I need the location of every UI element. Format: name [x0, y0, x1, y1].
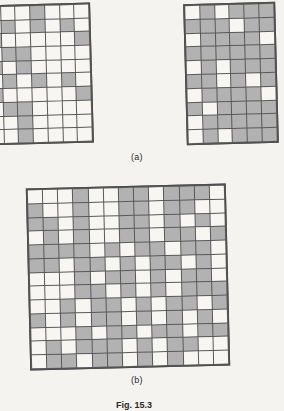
- grid-cell: [32, 341, 46, 354]
- grid-cell: [215, 19, 229, 32]
- grid-cell: [76, 299, 90, 312]
- grid-cell: [246, 46, 260, 59]
- grid-cell: [212, 282, 226, 295]
- grid-cell: [33, 102, 47, 115]
- grid-cell: [89, 216, 103, 229]
- grid-cell: [167, 311, 181, 324]
- grid-cell: [107, 326, 121, 339]
- grid-cell: [92, 354, 106, 367]
- grid-cell: [165, 228, 179, 241]
- grid-cell: [48, 129, 62, 142]
- grid-cell: [195, 214, 209, 227]
- grid-cell: [149, 201, 163, 214]
- grid-cell: [62, 327, 76, 340]
- panel-a-caption: (a): [131, 152, 143, 162]
- grid-cell: [262, 114, 276, 127]
- grid-cell: [119, 188, 133, 201]
- grid-cell: [212, 296, 226, 309]
- grid-cell: [247, 87, 261, 100]
- grid-cell: [195, 200, 209, 213]
- grid-cell: [75, 32, 89, 45]
- figure-number-label: Fig. 15.3: [116, 400, 152, 411]
- panel-b-caption: (b): [131, 375, 143, 385]
- grid-cell: [78, 128, 92, 141]
- grid-cell: [183, 338, 197, 351]
- grid-cell: [76, 73, 90, 86]
- grid-cell: [18, 88, 32, 101]
- grid-cell: [121, 270, 135, 283]
- grid-cell: [165, 201, 179, 214]
- grid-cell: [134, 187, 148, 200]
- grid-cell: [60, 258, 74, 271]
- grid-cell: [261, 73, 275, 86]
- grid-cell: [198, 310, 212, 323]
- grid-cell: [197, 269, 211, 282]
- grid-cell: [153, 352, 167, 365]
- grid-cell: [77, 327, 91, 340]
- grid-cell: [182, 296, 196, 309]
- grid-cell: [233, 115, 247, 128]
- grid-cell: [138, 339, 152, 352]
- grid-cell: [31, 47, 45, 60]
- grid-cell: [196, 227, 210, 240]
- grid-cell: [3, 103, 17, 116]
- grid-cell: [76, 313, 90, 326]
- grid-cell: [47, 341, 61, 354]
- grid-cell: [59, 231, 73, 244]
- grid-cell: [32, 74, 46, 87]
- grid-cell: [77, 87, 91, 100]
- grid-cell: [0, 76, 2, 89]
- grid-cell: [32, 355, 46, 368]
- grid-cell: [45, 286, 59, 299]
- grid-cell: [104, 202, 118, 215]
- grid-cell: [31, 314, 45, 327]
- grid-cell: [182, 283, 196, 296]
- grid-cell: [187, 61, 201, 74]
- grid-cell: [231, 74, 245, 87]
- grid-cell: [62, 355, 76, 368]
- grid-cell: [218, 129, 232, 142]
- grid-cell: [31, 33, 45, 46]
- grid-cell: [123, 353, 137, 366]
- grid-cell: [46, 327, 60, 340]
- grid-cell: [152, 325, 166, 338]
- grid-cell: [75, 272, 89, 285]
- grid-cell: [136, 256, 150, 269]
- grid-cell: [61, 313, 75, 326]
- grid-cell: [74, 203, 88, 216]
- grid-cell: [259, 4, 273, 17]
- grid-cell: [186, 33, 200, 46]
- grid-cell: [137, 298, 151, 311]
- grid-cell: [153, 339, 167, 352]
- grid-cell: [187, 89, 201, 102]
- grid-cell: [19, 129, 33, 142]
- grid-cell: [151, 256, 165, 269]
- grid-cell: [152, 311, 166, 324]
- grid-cell: [213, 323, 227, 336]
- grid-cell: [122, 326, 136, 339]
- grid-cell: [179, 186, 193, 199]
- grid-cell: [30, 273, 44, 286]
- grid-cell: [33, 115, 47, 128]
- grid-cell: [201, 33, 215, 46]
- grid-cell: [48, 101, 62, 114]
- grid-cell: [45, 272, 59, 285]
- grid-cell: [181, 269, 195, 282]
- grid-cell: [89, 202, 103, 215]
- grid-cell: [60, 272, 74, 285]
- grid-cell: [182, 310, 196, 323]
- grid-cell: [246, 59, 260, 72]
- grid-cell: [45, 5, 59, 18]
- grid-cell: [180, 228, 194, 241]
- grid-cell: [218, 115, 232, 128]
- grid-cell: [213, 337, 227, 350]
- grid-cell: [166, 269, 180, 282]
- grid-cell: [47, 88, 61, 101]
- grid-cell: [217, 88, 231, 101]
- grid-cell: [77, 100, 91, 113]
- grid-cell: [63, 115, 77, 128]
- grid-cell: [186, 20, 200, 33]
- grid-cell: [180, 200, 194, 213]
- grid-cell: [181, 255, 195, 268]
- grid-cell: [4, 116, 18, 129]
